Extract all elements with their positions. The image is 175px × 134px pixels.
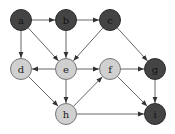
node-b: b [56,10,77,31]
node-label: c [107,15,113,26]
node-h: h [56,104,77,125]
node-label: h [63,109,70,120]
node-label: a [18,15,24,26]
edge-c-e [73,28,103,61]
node-c: c [100,10,121,31]
edge-h-f [73,77,102,107]
node-label: d [18,64,25,75]
node-g: g [145,59,166,80]
node-d: d [11,59,32,80]
nodes-layer: abcdefghi [11,10,166,125]
node-e: e [56,59,77,80]
edge-c-g [117,28,147,61]
node-a: a [11,10,32,31]
graph-diagram: abcdefghi [0,0,175,134]
edge-d-h [28,76,58,106]
node-label: g [152,64,159,75]
node-label: e [63,64,69,75]
node-i: i [145,104,166,125]
node-f: f [100,59,121,80]
graph-svg: abcdefghi [0,0,175,134]
node-label: b [63,15,69,26]
edge-f-i [117,76,147,106]
edges-layer [21,20,155,114]
node-label: i [153,109,156,120]
edge-a-e [28,28,58,61]
